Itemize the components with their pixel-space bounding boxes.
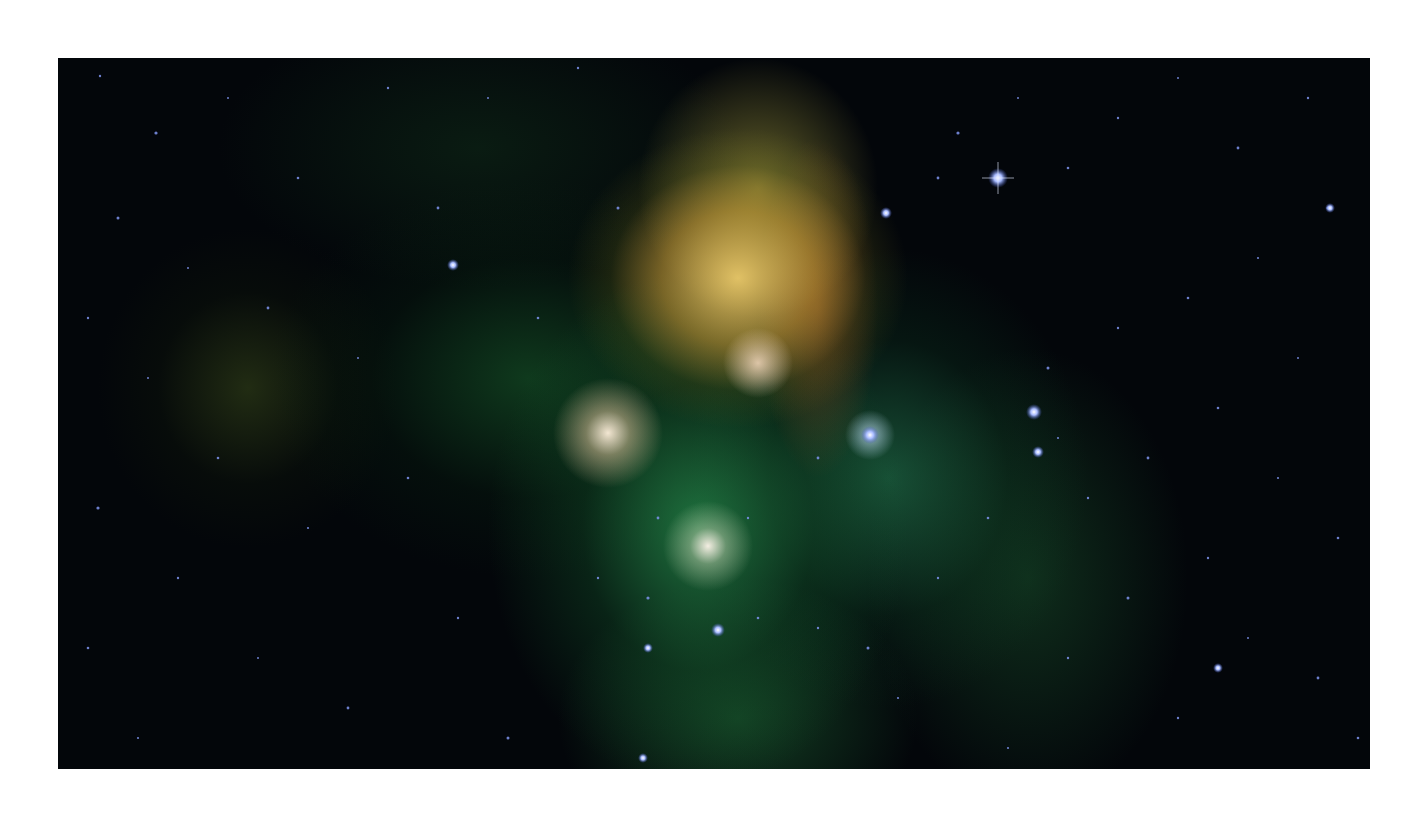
bright-stars [447,162,1335,769]
starfield [58,58,1370,769]
nebula-image [58,58,1370,769]
